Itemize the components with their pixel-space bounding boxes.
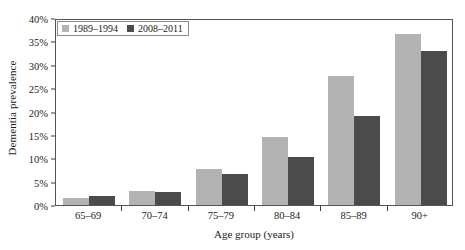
bar: [89, 196, 115, 205]
y-axis-tick-label: 30%: [29, 60, 48, 71]
bar: [262, 137, 288, 205]
y-axis-tick-label: 35%: [29, 37, 48, 48]
y-axis-tick-labels: 0%5%10%15%20%25%30%35%40%: [20, 0, 51, 250]
legend-swatch: [62, 25, 69, 32]
y-axis-tick-label: 40%: [29, 14, 48, 25]
legend-entry: 1989–1994: [62, 23, 118, 34]
plot-area: [56, 20, 452, 205]
legend-swatch: [127, 25, 134, 32]
bar: [222, 174, 248, 205]
y-axis-title-text: Dementia prevalence: [6, 60, 18, 155]
bar-group: [388, 20, 454, 205]
bar: [354, 116, 380, 205]
chart-legend: 1989–19942008–2011: [57, 21, 189, 36]
x-axis-tick-label: 65–69: [75, 210, 101, 221]
bar-group: [189, 20, 255, 205]
bar: [63, 198, 89, 205]
y-axis-tick-label: 5%: [34, 177, 48, 188]
legend-entry: 2008–2011: [127, 23, 183, 34]
bar: [155, 192, 181, 205]
y-axis-tick-label: 20%: [29, 107, 48, 118]
bar: [328, 76, 354, 205]
y-axis-tick-label: 15%: [29, 130, 48, 141]
bar-group: [321, 20, 387, 205]
x-axis-tick-label: 80–84: [274, 210, 300, 221]
bar: [395, 34, 421, 205]
x-axis-tick-label: 90+: [412, 210, 428, 221]
chart-figure: Dementia prevalence 0%5%10%15%20%25%30%3…: [0, 0, 465, 250]
x-axis-tick-label: 70–74: [141, 210, 167, 221]
bar-group: [56, 20, 122, 205]
y-axis-tick-label: 0%: [34, 201, 48, 212]
x-axis-title: Age group (years): [55, 228, 453, 240]
legend-label: 1989–1994: [73, 23, 118, 34]
x-axis-tick-label: 85–89: [340, 210, 366, 221]
legend-label: 2008–2011: [138, 23, 183, 34]
bar: [288, 157, 314, 205]
bar: [421, 51, 447, 205]
bar-group: [255, 20, 321, 205]
y-axis-tick-label: 25%: [29, 84, 48, 95]
x-axis-tick-label: 75–79: [208, 210, 234, 221]
plot-frame: [55, 19, 453, 206]
bar-group: [122, 20, 188, 205]
y-axis-tick-label: 10%: [29, 154, 48, 165]
bar: [129, 191, 155, 205]
x-axis-tick-labels: 65–6970–7475–7980–8485–8990+: [55, 210, 453, 226]
bar: [196, 169, 222, 205]
